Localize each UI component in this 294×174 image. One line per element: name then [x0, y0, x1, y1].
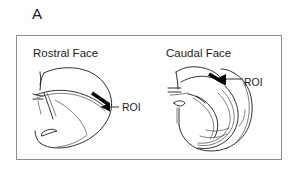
figure-panel-a: A Rostral Face Caudal Face ROI ROI	[0, 0, 294, 174]
rostral-brain-drawing	[33, 68, 112, 148]
brain-section-drawings	[0, 0, 294, 174]
